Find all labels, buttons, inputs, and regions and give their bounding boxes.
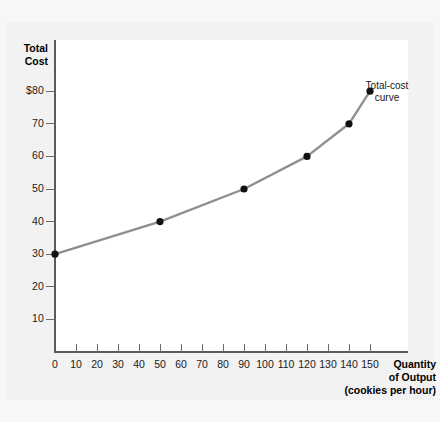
data-point — [345, 120, 352, 127]
curve-layer — [0, 0, 440, 422]
series-annotation: Total-cost curve — [350, 80, 424, 104]
total-cost-curve-line — [55, 91, 370, 254]
series-annotation-line-2: curve — [350, 92, 424, 104]
total-cost-curve-chart: Total Cost Quantity of Output (cookies p… — [0, 0, 440, 422]
data-point — [51, 251, 58, 258]
data-point-markers — [51, 88, 373, 258]
data-point — [156, 218, 163, 225]
data-point — [303, 153, 310, 160]
data-point — [240, 185, 247, 192]
series-annotation-line-1: Total-cost — [350, 80, 424, 92]
